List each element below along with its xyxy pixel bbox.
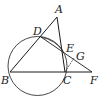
label-C: C <box>63 74 72 87</box>
label-G: G <box>76 50 85 63</box>
label-F: F <box>89 74 98 87</box>
label-B: B <box>0 74 9 87</box>
label-E: E <box>65 42 74 55</box>
geometry-diagram: A D E G B C F <box>0 0 110 107</box>
label-A: A <box>54 3 63 16</box>
label-D: D <box>32 25 42 38</box>
